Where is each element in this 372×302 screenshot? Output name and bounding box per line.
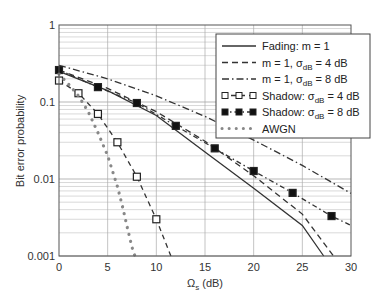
x-tick: 5: [105, 261, 111, 273]
y-tick-labels: 0.0010.010.11: [27, 19, 55, 262]
x-tick: 20: [248, 261, 260, 273]
legend-marker: [250, 93, 256, 99]
x-axis-label: Ωs (dB): [187, 277, 223, 292]
y-tick: 0.01: [34, 173, 55, 185]
legend: Fading: m = 1m = 1, σdB = 4 dBm = 1, σdB…: [216, 34, 370, 138]
series-line-5: [59, 74, 135, 256]
x-tick-labels: 051015202530: [56, 261, 357, 273]
open-square-marker: [114, 139, 121, 146]
y-tick: 1: [49, 19, 55, 31]
filled-square-marker: [328, 213, 335, 220]
filled-square-marker: [289, 189, 296, 196]
x-tick: 30: [345, 261, 357, 273]
legend-label: AWGN: [262, 123, 296, 135]
x-tick: 10: [150, 261, 162, 273]
filled-square-marker: [211, 145, 218, 152]
legend-marker: [236, 93, 242, 99]
y-tick: 0.1: [40, 96, 55, 108]
legend-marker: [222, 93, 228, 99]
filled-square-marker: [94, 84, 101, 91]
filled-square-marker: [172, 122, 179, 129]
filled-square-marker: [133, 100, 140, 107]
ber-chart: 051015202530 0.0010.010.11 Ωs (dB) Bit e…: [0, 0, 372, 302]
legend-marker: [222, 109, 228, 115]
filled-square-marker: [250, 168, 257, 175]
series-line-3: [59, 81, 171, 257]
legend-marker: [250, 109, 256, 115]
open-square-marker: [153, 216, 160, 223]
x-tick: 0: [56, 261, 62, 273]
y-tick: 0.001: [27, 250, 55, 262]
legend-label: Fading: m = 1: [262, 40, 330, 52]
y-axis-label: Bit error probability: [14, 94, 26, 187]
open-square-marker: [94, 110, 101, 117]
legend-marker: [236, 109, 242, 115]
open-square-marker: [133, 173, 140, 180]
x-tick: 25: [296, 261, 308, 273]
x-tick: 15: [199, 261, 211, 273]
